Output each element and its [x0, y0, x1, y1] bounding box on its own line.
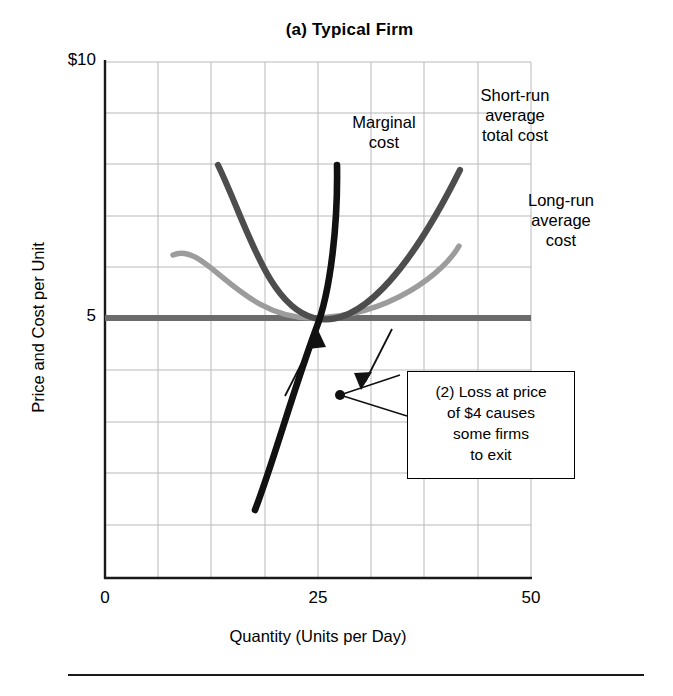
curve-label-marginal-cost: Marginal cost	[330, 112, 438, 152]
annotation-arrows	[285, 329, 392, 396]
marginal-cost-curve	[255, 165, 337, 510]
loss-point-marker	[335, 390, 345, 400]
long-run-average-cost-curve	[173, 246, 459, 318]
curve-label-short-run-average-total-cost: Short-run average total cost	[455, 85, 575, 145]
curve-label-long-run-average-cost: Long-run average cost	[505, 190, 617, 250]
economics-figure: (a) Typical Firm Price and Cost per Unit…	[0, 0, 673, 696]
figure-bottom-rule	[68, 674, 644, 676]
loss-callout-box: (2) Loss at price of $4 causes some firm…	[407, 371, 575, 479]
